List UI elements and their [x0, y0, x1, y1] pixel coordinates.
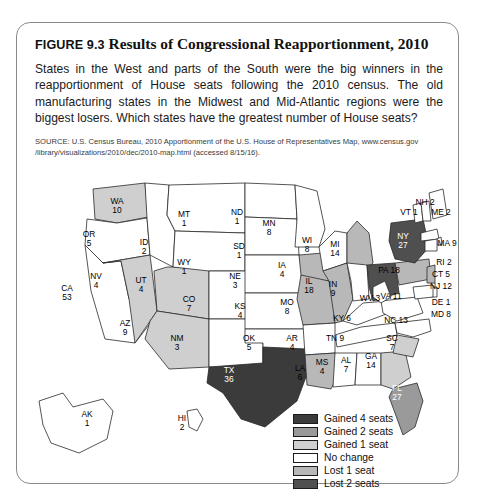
- figure-header: FIGURE 9.3 Results of Congressional Reap…: [35, 35, 442, 158]
- state-shape-wa: [93, 183, 148, 223]
- state-shape-nd: [245, 183, 297, 219]
- state-shape-ut: [154, 267, 209, 319]
- state-shape-va: [381, 297, 423, 321]
- legend-swatch: [293, 466, 318, 476]
- state-shape-ct: [425, 239, 437, 251]
- legend-label: Gained 4 seats: [324, 414, 393, 424]
- state-shape-al: [355, 353, 381, 385]
- legend-item: Lost 1 seat: [293, 465, 443, 477]
- legend-label: Gained 2 seats: [324, 427, 393, 437]
- legend-swatch: [293, 453, 318, 463]
- legend-label: Lost 1 seat: [324, 466, 374, 476]
- state-shape-me: [429, 189, 447, 219]
- state-shape-hi: [187, 409, 203, 431]
- state-shape-sd: [245, 217, 299, 255]
- state-shape-mt: [167, 183, 245, 233]
- figure-label: FIGURE 9.3: [35, 38, 105, 52]
- figure-panel: FIGURE 9.3 Results of Congressional Reap…: [16, 22, 459, 484]
- state-shape-mn: [295, 185, 325, 247]
- state-shape-ms: [333, 353, 357, 387]
- state-shape-nc: [395, 319, 431, 337]
- figure-title-line: FIGURE 9.3 Results of Congressional Reap…: [35, 35, 442, 53]
- legend-item: Lost 2 seats: [293, 478, 443, 490]
- legend-label: No change: [324, 453, 374, 463]
- state-shape-tn: [335, 323, 397, 347]
- state-shape-nj: [427, 265, 435, 283]
- legend-swatch: [293, 479, 318, 489]
- state-shape-ar: [303, 323, 335, 355]
- state-shape-ga: [381, 351, 411, 389]
- legend-item: No change: [293, 452, 443, 464]
- legend-label: Lost 2 seats: [324, 479, 380, 489]
- map-legend: Gained 4 seatsGained 2 seatsGained 1 sea…: [293, 413, 443, 491]
- legend-swatch: [293, 427, 318, 437]
- page-title: Results of Congressional Reapportionment…: [109, 35, 429, 52]
- legend-item: Gained 1 seat: [293, 439, 443, 451]
- state-shape-md: [413, 285, 433, 299]
- legend-swatch: [293, 440, 318, 450]
- state-shape-ak: [39, 393, 113, 453]
- legend-item: Gained 4 seats: [293, 413, 443, 425]
- figure-description: States in the West and parts of the Sout…: [35, 61, 443, 127]
- figure-source: SOURCE: U.S. Census Bureau, 2010 Apporti…: [35, 136, 445, 158]
- state-shape-ri: [437, 237, 442, 245]
- state-shape-ne: [245, 255, 305, 293]
- state-shape-nh: [421, 201, 431, 221]
- legend-item: Gained 2 seats: [293, 426, 443, 438]
- legend-label: Gained 1 seat: [324, 440, 388, 450]
- state-shape-sc: [393, 335, 419, 357]
- state-shape-wy: [173, 231, 245, 271]
- legend-swatch: [293, 414, 318, 424]
- state-shape-az: [145, 311, 209, 369]
